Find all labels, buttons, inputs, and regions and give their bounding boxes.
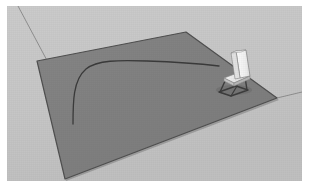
scene-svg xyxy=(7,6,302,181)
scene-frame xyxy=(0,0,309,189)
scene-canvas xyxy=(7,6,302,181)
